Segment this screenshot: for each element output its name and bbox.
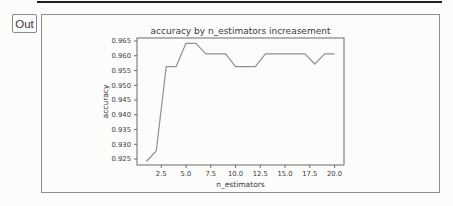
y-tick-label: 0.960 <box>112 52 131 60</box>
x-tick-label: 10.0 <box>228 170 243 178</box>
y-tick-label: 0.930 <box>112 141 131 149</box>
accuracy-data-line <box>146 43 334 161</box>
x-tick-label: 2.5 <box>156 170 167 178</box>
y-tick-label: 0.965 <box>112 37 131 45</box>
y-tick-label: 0.935 <box>112 126 131 134</box>
axes-frame <box>137 38 344 165</box>
y-tick-label: 0.940 <box>112 111 131 119</box>
y-tick-label: 0.925 <box>112 155 131 163</box>
x-tick-label: 12.5 <box>253 170 268 178</box>
x-tick-label: 7.5 <box>205 170 216 178</box>
x-tick-label: 17.5 <box>302 170 317 178</box>
x-tick-label: 20.0 <box>327 170 342 178</box>
accuracy-line-chart: 2.55.07.510.012.515.017.520.00.9250.9300… <box>42 15 439 192</box>
chart-title: accuracy by n_estimators increasement <box>151 26 331 36</box>
y-tick-label: 0.950 <box>112 82 131 90</box>
cell-divider-line <box>37 1 442 3</box>
y-axis-label: accuracy <box>101 84 110 118</box>
out-cell-label: Out <box>12 14 37 33</box>
x-tick-label: 15.0 <box>277 170 292 178</box>
x-axis-label: n_estimators <box>216 180 265 189</box>
y-tick-label: 0.955 <box>112 67 131 75</box>
x-tick-label: 5.0 <box>181 170 192 178</box>
y-tick-label: 0.945 <box>112 96 131 104</box>
notebook-output-box: 2.55.07.510.012.515.017.520.00.9250.9300… <box>41 14 440 193</box>
